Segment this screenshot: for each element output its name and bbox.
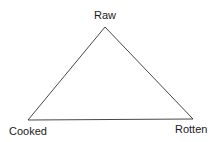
vertex-label-rotten: Rotten xyxy=(175,124,207,135)
vertex-label-cooked: Cooked xyxy=(9,126,47,137)
vertex-label-raw: Raw xyxy=(94,10,116,21)
triangle-shape xyxy=(28,27,193,120)
culinary-triangle xyxy=(0,0,224,142)
